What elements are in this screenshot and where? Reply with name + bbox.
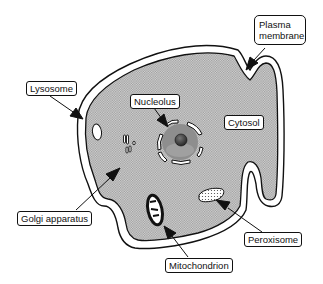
label-mitochondrion: Mitochondrion [165, 258, 233, 273]
label-lysosome-text: Lysosome [30, 83, 73, 94]
label-peroxisome-text: Peroxisome [248, 234, 298, 245]
label-peroxisome: Peroxisome [244, 232, 302, 247]
label-plasma-membrane-line1: Plasma [259, 19, 301, 30]
label-plasma-membrane: Plasma membrane [254, 15, 306, 45]
label-lysosome: Lysosome [26, 81, 77, 96]
label-nucleolus: Nucleolus [130, 94, 180, 109]
label-mitochondrion-text: Mitochondrion [169, 260, 229, 271]
label-golgi-apparatus-text: Golgi apparatus [21, 213, 88, 224]
label-cytosol-text: Cytosol [228, 117, 260, 128]
label-golgi-apparatus: Golgi apparatus [17, 211, 92, 226]
nucleolus-shape [175, 134, 187, 146]
label-cytosol: Cytosol [224, 115, 264, 130]
label-plasma-membrane-line2: membrane [259, 30, 301, 41]
label-nucleolus-text: Nucleolus [134, 96, 176, 107]
